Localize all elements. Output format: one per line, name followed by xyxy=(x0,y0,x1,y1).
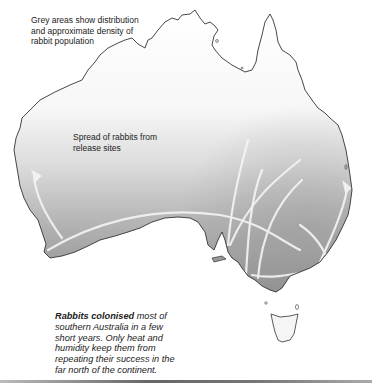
island xyxy=(265,302,267,304)
bottom-rule xyxy=(0,380,372,383)
arrows-label: Spread of rabbits from release sites xyxy=(73,132,173,153)
island xyxy=(296,305,299,310)
island xyxy=(216,40,219,43)
caption: Rabbits colonised most of southern Austr… xyxy=(55,311,175,376)
tasmania xyxy=(271,314,298,342)
kangaroo-island xyxy=(212,256,226,262)
island xyxy=(241,67,243,69)
legend-text: Grey areas show distribution and approxi… xyxy=(31,15,141,47)
caption-lead: Rabbits colonised xyxy=(55,311,134,321)
